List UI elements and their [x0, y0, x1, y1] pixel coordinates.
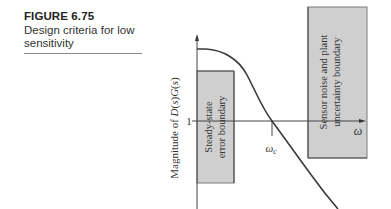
- sensor-noise-label: Sensor noise and plant: [318, 35, 329, 130]
- bode-magnitude-diagram: 1 Magnitude of D(s)G(s) Steady-state err…: [0, 0, 391, 209]
- y-axis-label: Magnitude of D(s)G(s): [168, 77, 181, 179]
- y-tick-label-1: 1: [186, 115, 192, 127]
- steady-state-error-label-line2: error boundary: [216, 95, 227, 158]
- crossover-frequency-label: ωc: [265, 142, 277, 156]
- y-axis-arrow-icon: [195, 34, 199, 41]
- x-axis-label-omega: ω: [354, 124, 362, 138]
- steady-state-error-label: Steady-state: [203, 101, 214, 153]
- sensor-noise-label-line2: uncertainty boundary: [331, 36, 342, 126]
